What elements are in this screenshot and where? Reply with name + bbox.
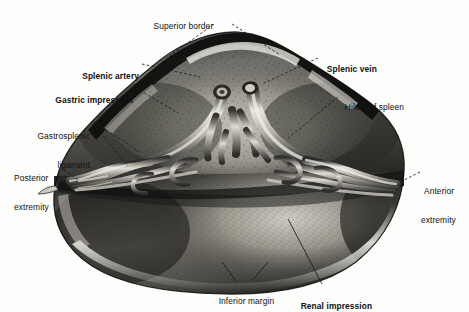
inferior-margin-text: Inferior margin: [219, 296, 275, 306]
label-gastric-impression: Gastric impression: [0, 86, 133, 105]
splenic-artery-text: Splenic artery: [82, 71, 139, 81]
label-renal-impression: Renal impression: [274, 292, 394, 311]
renal-impression-text: Renal impression: [301, 301, 372, 311]
superior-border-text: Superior border: [154, 21, 214, 31]
label-splenic-artery: Splenic artery: [0, 62, 139, 81]
label-posterior-extremity: Posterior extremity: [14, 155, 49, 222]
posterior-extremity-line2: extremity: [14, 203, 49, 213]
label-splenic-vein: Splenic vein: [322, 55, 377, 74]
anatomical-figure: Superior border Splenic artery Splenic v…: [0, 0, 469, 312]
anterior-extremity-line1: Anterior: [424, 187, 456, 197]
hilum-of-spleen-text: Hilum of spleen: [345, 102, 404, 112]
label-anterior-extremity: Anterior extremity: [424, 168, 456, 235]
anterior-extremity-line2: extremity: [421, 216, 456, 226]
label-superior-border: Superior border: [131, 12, 231, 31]
label-hilum-of-spleen: Hilum of spleen: [340, 93, 404, 112]
gastric-impression-text: Gastric impression: [55, 95, 133, 105]
splenic-vein-text: Splenic vein: [327, 64, 377, 74]
gastrosplenic-ligament-line1: Gastrosplenic: [0, 132, 90, 142]
posterior-extremity-line1: Posterior: [14, 174, 49, 184]
